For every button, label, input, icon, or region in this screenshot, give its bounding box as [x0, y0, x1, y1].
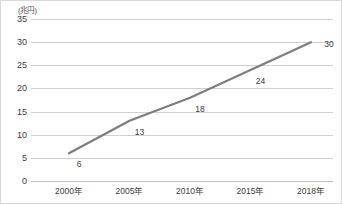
x-tick-label: 2018年 — [297, 184, 325, 196]
y-tick-label: 30 — [5, 38, 27, 47]
y-tick-label: 20 — [5, 84, 27, 93]
data-point-label: 13 — [135, 127, 144, 137]
y-tick-label: 15 — [5, 107, 27, 116]
line-series — [31, 19, 333, 181]
plot-area: 613182430 — [31, 19, 333, 181]
series-line — [69, 42, 311, 153]
data-point-label: 18 — [195, 104, 204, 114]
chart-figure: (兆円) 05101520253035 613182430 2000年2005年… — [0, 0, 342, 204]
x-tick-label: 2010年 — [176, 184, 204, 196]
y-tick-label: 5 — [5, 153, 27, 162]
y-axis-tick-labels: 05101520253035 — [3, 19, 27, 181]
x-tick-label: 2000年 — [55, 184, 83, 196]
gridline — [31, 181, 333, 182]
y-tick-label: 10 — [5, 130, 27, 139]
x-axis-tick-labels: 2000年2005年2010年2015年2018年 — [31, 184, 333, 200]
y-tick-label: 0 — [5, 177, 27, 186]
x-tick-label: 2005年 — [116, 184, 144, 196]
x-tick-label: 2015年 — [237, 184, 265, 196]
data-point-label: 6 — [77, 159, 82, 169]
data-point-label: 30 — [324, 39, 333, 49]
data-point-label: 24 — [256, 76, 265, 86]
y-tick-label: 25 — [5, 61, 27, 70]
y-tick-label: 35 — [5, 15, 27, 24]
